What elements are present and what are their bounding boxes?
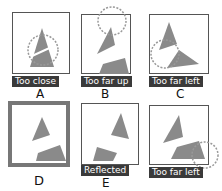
caption-b: Too far up <box>81 76 132 87</box>
letter-d: D <box>34 173 44 188</box>
letter-e: E <box>102 176 110 190</box>
panel-c: Too far left C <box>149 12 213 94</box>
shapes-e <box>81 103 139 165</box>
shapes-c <box>149 12 213 74</box>
shapes-a <box>12 12 70 74</box>
panel-b: Too far up B <box>81 12 139 94</box>
panel-e: Reflected E <box>81 103 139 189</box>
panel-f: Too far left <box>149 103 219 189</box>
letter-a: A <box>36 87 44 101</box>
letter-c: C <box>176 87 184 101</box>
panel-d: D <box>8 101 72 189</box>
caption-a: Too close <box>12 76 59 87</box>
caption-e: Reflected <box>81 165 129 176</box>
letter-b: B <box>101 87 109 101</box>
caption-f: Too far left <box>149 167 203 178</box>
shapes-d <box>8 101 70 167</box>
panel-a: Too close A <box>12 12 70 94</box>
caption-c: Too far left <box>149 76 203 87</box>
shapes-b <box>81 12 139 74</box>
shapes-f <box>149 103 219 165</box>
